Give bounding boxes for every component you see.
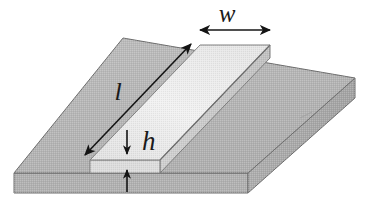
- height-label: h: [142, 126, 156, 156]
- dimension-width: w: [200, 0, 270, 30]
- length-label: l: [114, 77, 121, 106]
- width-label: w: [219, 0, 236, 27]
- microstrip-diagram-canvas: w l h: [0, 0, 374, 207]
- microstrip-figure: w l h: [0, 0, 374, 207]
